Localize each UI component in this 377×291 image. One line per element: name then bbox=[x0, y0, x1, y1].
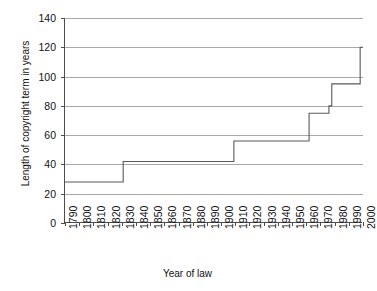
x-axis-tick-label: 1900 bbox=[224, 206, 235, 229]
y-tick-mark bbox=[61, 164, 65, 165]
x-axis-tick-label: 1890 bbox=[210, 206, 221, 229]
y-axis-tick-label: 140 bbox=[22, 13, 56, 23]
series-polyline bbox=[65, 47, 363, 182]
y-tick-mark bbox=[61, 18, 65, 19]
x-axis-tick-label: 1870 bbox=[182, 206, 193, 229]
x-axis-tick-label: 1860 bbox=[167, 206, 178, 229]
series-line bbox=[65, 18, 363, 223]
y-tick-mark bbox=[61, 135, 65, 136]
x-axis-tick-label: 1940 bbox=[281, 206, 292, 229]
x-axis-tick-label: 2000 bbox=[366, 206, 377, 229]
x-axis-tick-label: 1820 bbox=[111, 206, 122, 229]
y-tick-mark bbox=[61, 77, 65, 78]
y-tick-mark bbox=[61, 106, 65, 107]
x-axis-tick-label: 1790 bbox=[68, 206, 79, 229]
x-axis-tick-label: 1880 bbox=[196, 206, 207, 229]
x-axis-title: Year of law bbox=[0, 268, 375, 279]
x-axis-tick-label: 1850 bbox=[153, 206, 164, 229]
x-axis-tick-label: 1930 bbox=[267, 206, 278, 229]
x-axis-tick-label: 1920 bbox=[252, 206, 263, 229]
y-axis-tick-label: 60 bbox=[22, 130, 56, 140]
y-axis-tick-label: 100 bbox=[22, 72, 56, 82]
y-axis-tick-label: 80 bbox=[22, 101, 56, 111]
x-tick-mark bbox=[363, 222, 364, 226]
y-axis-tick-label: 120 bbox=[22, 42, 56, 52]
plot-area bbox=[64, 18, 362, 223]
x-axis-tick-label: 1830 bbox=[125, 206, 136, 229]
x-axis-tick-label: 1980 bbox=[338, 206, 349, 229]
x-axis-tick-label: 1960 bbox=[309, 206, 320, 229]
x-axis-tick-label: 1950 bbox=[295, 206, 306, 229]
x-axis-tick-label: 1910 bbox=[238, 206, 249, 229]
x-axis-tick-label: 1840 bbox=[139, 206, 150, 229]
x-axis-tick-label: 1970 bbox=[323, 206, 334, 229]
y-axis-tick-label: 40 bbox=[22, 159, 56, 169]
y-axis-tick-label: 20 bbox=[22, 189, 56, 199]
x-axis-tick-label: 1800 bbox=[82, 206, 93, 229]
y-tick-mark bbox=[61, 194, 65, 195]
x-axis-tick-label: 1990 bbox=[352, 206, 363, 229]
y-tick-mark bbox=[61, 223, 65, 224]
x-axis-tick-label: 1810 bbox=[96, 206, 107, 229]
y-axis-tick-label: 0 bbox=[22, 218, 56, 228]
y-tick-mark bbox=[61, 47, 65, 48]
